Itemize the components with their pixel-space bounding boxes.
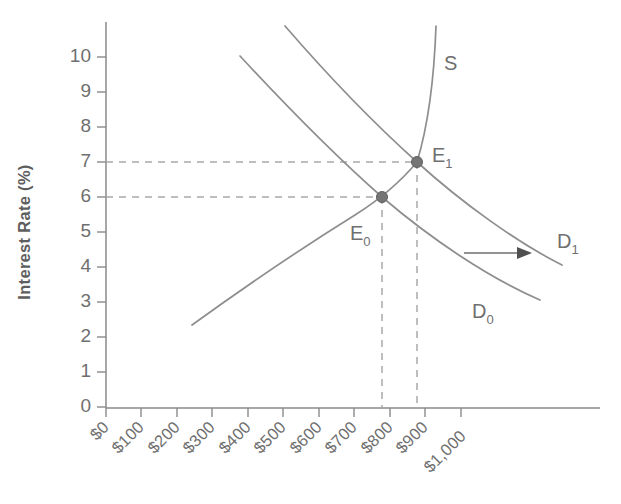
x-tick-label: $400 [215,417,254,456]
demand-curve-d1-label: D1 [557,230,579,257]
y-axis-ticks [97,57,106,407]
x-tick-label: $300 [179,417,218,456]
demand-curve-d0 [240,56,540,300]
chart-canvas: 0 1 2 3 4 5 6 7 8 9 10 $0 [0,0,621,504]
x-tick-label: $200 [144,417,183,456]
x-tick-label: $700 [321,417,360,456]
y-tick-label: 9 [80,80,91,101]
x-tick-label: $100 [108,417,147,456]
y-tick-label: 5 [80,220,91,241]
supply-curve-label: S [444,52,457,74]
demand-curve-d0-label: D0 [472,300,494,327]
x-tick-label: $0 [86,417,112,443]
y-tick-label: 10 [70,45,91,66]
equilibrium-point-e1 [412,157,423,168]
y-tick-label: 7 [80,150,91,171]
y-tick-label: 0 [80,395,91,416]
y-tick-label: 2 [80,325,91,346]
supply-curve [192,26,436,325]
equilibrium-label-e1: E1 [432,144,453,171]
y-tick-label: 8 [80,115,91,136]
y-tick-label: 6 [80,185,91,206]
x-tick-label: $800 [357,417,396,456]
demand-shift-arrow [464,247,532,259]
interest-rate-supply-demand-chart: 0 1 2 3 4 5 6 7 8 9 10 $0 [0,0,621,504]
x-tick-label: $500 [250,417,289,456]
x-tick-label: $900 [392,417,431,456]
equilibrium-label-e0: E0 [350,222,371,249]
x-axis-tick-labels: $0 $100 $200 $300 $400 $500 $600 $700 $8… [86,417,469,475]
y-tick-label: 1 [80,360,91,381]
y-tick-label: 4 [80,255,91,276]
y-axis-tick-labels: 0 1 2 3 4 5 6 7 8 9 10 [70,45,92,416]
x-tick-label: $600 [286,417,325,456]
y-tick-label: 3 [80,290,91,311]
y-axis-title: Interest Rate (%) [15,164,33,299]
equilibrium-point-e0 [377,192,388,203]
x-axis-ticks [106,408,461,417]
